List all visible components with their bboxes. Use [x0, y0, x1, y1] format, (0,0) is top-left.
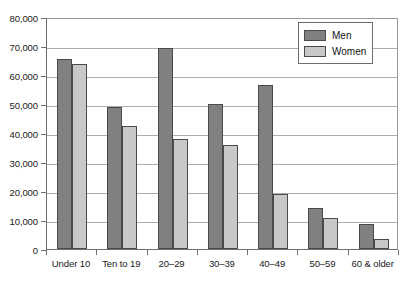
y-tick-label: 50,000 — [0, 100, 38, 111]
x-tick-mark — [297, 250, 298, 255]
legend-entry-women: Women — [304, 43, 366, 59]
x-tick-mark — [398, 250, 399, 255]
legend-swatch-women-icon — [304, 46, 326, 57]
bar-group — [47, 19, 97, 249]
bar-men — [208, 104, 223, 249]
bar-chart: 010,00020,00030,00040,00050,00060,00070,… — [0, 0, 410, 284]
legend-swatch-men-icon — [304, 30, 326, 41]
x-tick-label: Under 10 — [52, 258, 90, 269]
x-tick-mark — [147, 250, 148, 255]
x-tick-label: Ten to 19 — [102, 258, 140, 269]
bar-group — [198, 19, 248, 249]
x-tick-label: 50–59 — [309, 258, 335, 269]
legend: Men Women — [298, 22, 373, 64]
bar-men — [57, 59, 72, 249]
bar-women — [173, 139, 188, 249]
x-tick-mark — [348, 250, 349, 255]
y-tick-label: 0 — [0, 245, 38, 256]
bar-women — [122, 126, 137, 249]
bar-men — [308, 208, 323, 249]
bar-group — [248, 19, 298, 249]
x-tick-label: 40–49 — [259, 258, 285, 269]
x-tick-mark — [197, 250, 198, 255]
x-tick-mark — [96, 250, 97, 255]
y-tick-label: 80,000 — [0, 13, 38, 24]
x-tick-mark — [46, 250, 47, 255]
y-tick-label: 30,000 — [0, 158, 38, 169]
bar-women — [223, 145, 238, 249]
bar-women — [323, 218, 338, 249]
x-tick-label: 20–29 — [159, 258, 185, 269]
bar-group — [97, 19, 147, 249]
x-tick-label: 30–39 — [209, 258, 235, 269]
bar-men — [158, 48, 173, 249]
y-tick-label: 60,000 — [0, 71, 38, 82]
bar-men — [258, 85, 273, 249]
bar-group — [148, 19, 198, 249]
y-tick-label: 40,000 — [0, 129, 38, 140]
bar-women — [72, 64, 87, 249]
bar-men — [359, 224, 374, 249]
bar-women — [374, 239, 389, 249]
y-tick-label: 10,000 — [0, 216, 38, 227]
y-tick-label: 70,000 — [0, 42, 38, 53]
y-tick-label: 20,000 — [0, 187, 38, 198]
x-tick-label: 60 & older — [352, 258, 394, 269]
bar-men — [107, 107, 122, 249]
legend-label-men: Men — [332, 30, 351, 41]
x-tick-mark — [247, 250, 248, 255]
legend-label-women: Women — [332, 46, 366, 57]
bar-women — [273, 194, 288, 249]
legend-entry-men: Men — [304, 27, 366, 43]
